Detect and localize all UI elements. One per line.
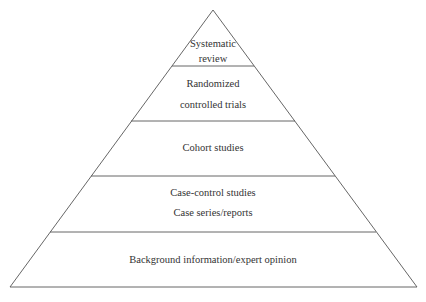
level-1-line-1: Systematic: [0, 39, 426, 50]
level-2-line-2: controlled trials: [0, 100, 426, 111]
level-4-line-1: Case-control studies: [0, 188, 426, 199]
level-5-line-1: Background information/expert opinion: [0, 255, 426, 266]
level-4-line-2: Case series/reports: [0, 208, 426, 219]
level-1-line-2: review: [0, 54, 426, 65]
level-3-line-1: Cohort studies: [0, 143, 426, 154]
level-2-line-1: Randomized: [0, 79, 426, 90]
